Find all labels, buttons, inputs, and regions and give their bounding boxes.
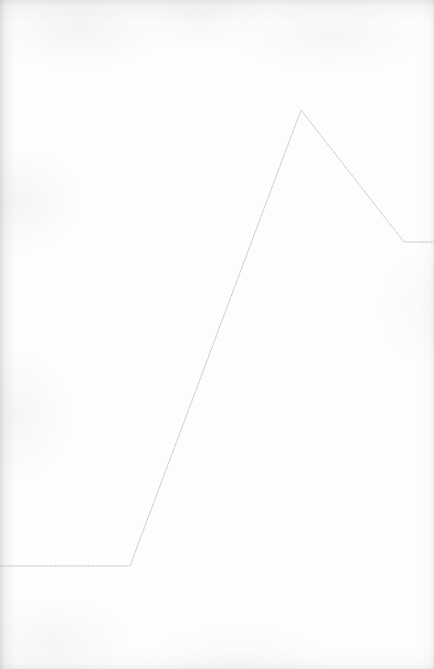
scanned-page [0,0,434,669]
line-chart-plot [0,0,434,669]
series-1-dotted-line [0,110,434,566]
